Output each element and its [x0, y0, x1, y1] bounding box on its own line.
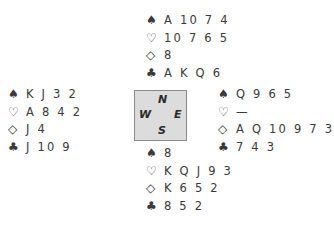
- west-hand: ♠K J 3 2 ♡A 8 4 2 ◇J 4 ♣J 10 9: [8, 86, 82, 156]
- south-hearts-row: ♡K Q J 9 3: [146, 163, 233, 181]
- south-diamonds-row: ◇K 6 5 2: [146, 180, 233, 198]
- west-spades-cards: K J 3 2: [26, 86, 78, 104]
- north-diamonds-cards: 8: [164, 47, 174, 65]
- east-hearts-row: ♡—: [218, 104, 334, 122]
- west-diamonds-row: ◇J 4: [8, 121, 82, 139]
- east-clubs-cards: 7 4 3: [236, 139, 276, 157]
- east-hearts-cards: —: [236, 104, 250, 122]
- diamond-icon: ◇: [146, 47, 164, 65]
- south-spades-cards: 8: [164, 145, 174, 163]
- east-spades-row: ♠Q 9 6 5: [218, 86, 334, 104]
- east-hand: ♠Q 9 6 5 ♡— ◇A Q 10 9 7 3 ♣7 4 3: [218, 86, 334, 156]
- south-spades-row: ♠8: [146, 145, 233, 163]
- diamond-icon: ◇: [218, 121, 236, 139]
- north-clubs-row: ♣A K Q 6: [146, 65, 230, 83]
- south-clubs-row: ♣8 5 2: [146, 198, 233, 216]
- north-clubs-cards: A K Q 6: [164, 65, 222, 83]
- north-hearts-row: ♡10 7 6 5: [146, 30, 230, 48]
- spade-icon: ♠: [218, 86, 236, 104]
- heart-icon: ♡: [218, 104, 236, 122]
- north-diamonds-row: ◇8: [146, 47, 230, 65]
- club-icon: ♣: [146, 198, 164, 216]
- club-icon: ♣: [8, 139, 26, 157]
- south-hearts-cards: K Q J 9 3: [164, 163, 233, 181]
- club-icon: ♣: [146, 65, 164, 83]
- spade-icon: ♠: [146, 12, 164, 30]
- compass-north-label: N: [158, 93, 167, 106]
- north-spades-row: ♠A 10 7 4: [146, 12, 230, 30]
- west-clubs-row: ♣J 10 9: [8, 139, 82, 157]
- east-diamonds-row: ◇A Q 10 9 7 3: [218, 121, 334, 139]
- north-hand: ♠A 10 7 4 ♡10 7 6 5 ◇8 ♣A K Q 6: [146, 12, 230, 82]
- south-clubs-cards: 8 5 2: [164, 198, 204, 216]
- north-hearts-cards: 10 7 6 5: [164, 30, 229, 48]
- compass-box: N W E S: [134, 90, 187, 141]
- spade-icon: ♠: [8, 86, 26, 104]
- heart-icon: ♡: [146, 163, 164, 181]
- east-clubs-row: ♣7 4 3: [218, 139, 334, 157]
- north-spades-cards: A 10 7 4: [164, 12, 230, 30]
- spade-icon: ♠: [146, 145, 164, 163]
- west-diamonds-cards: J 4: [26, 121, 47, 139]
- compass-west-label: W: [139, 108, 151, 121]
- heart-icon: ♡: [146, 30, 164, 48]
- diamond-icon: ◇: [8, 121, 26, 139]
- west-clubs-cards: J 10 9: [26, 139, 72, 157]
- south-hand: ♠8 ♡K Q J 9 3 ◇K 6 5 2 ♣8 5 2: [146, 145, 233, 215]
- compass-south-label: S: [158, 124, 166, 137]
- west-hearts-cards: A 8 4 2: [26, 104, 82, 122]
- compass-east-label: E: [174, 108, 182, 121]
- diamond-icon: ◇: [146, 180, 164, 198]
- west-spades-row: ♠K J 3 2: [8, 86, 82, 104]
- west-hearts-row: ♡A 8 4 2: [8, 104, 82, 122]
- heart-icon: ♡: [8, 104, 26, 122]
- east-spades-cards: Q 9 6 5: [236, 86, 293, 104]
- south-diamonds-cards: K 6 5 2: [164, 180, 220, 198]
- east-diamonds-cards: A Q 10 9 7 3: [236, 121, 334, 139]
